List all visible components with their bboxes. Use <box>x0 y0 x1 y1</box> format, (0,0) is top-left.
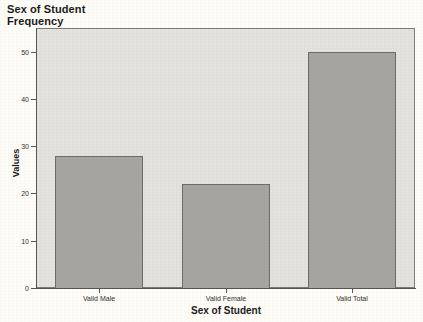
y-tick-label-0: 0 <box>0 285 29 292</box>
y-tick-10 <box>31 241 37 242</box>
chart-title: Sex of Student Frequency <box>7 3 85 27</box>
x-tick-label-1: Valid Female <box>206 295 246 302</box>
y-tick-label-10: 10 <box>0 237 29 244</box>
bars-layer <box>37 29 414 287</box>
x-tick-label-2: Valid Total <box>336 295 368 302</box>
y-axis-line <box>36 28 37 289</box>
x-tick-0 <box>99 288 100 293</box>
plot-area <box>36 28 415 288</box>
x-tick-2 <box>352 288 353 293</box>
y-tick-50 <box>31 52 37 53</box>
bar-chart: Sex of Student Frequency 01020304050 Val… <box>0 0 423 322</box>
y-tick-20 <box>31 193 37 194</box>
x-tick-1 <box>226 288 227 293</box>
y-tick-label-40: 40 <box>0 95 29 102</box>
bar <box>308 52 396 289</box>
y-tick-label-50: 50 <box>0 48 29 55</box>
y-tick-30 <box>31 146 37 147</box>
bar <box>55 156 143 289</box>
y-axis-title: Values <box>11 133 21 193</box>
bar <box>182 184 270 289</box>
y-tick-0 <box>31 288 37 289</box>
y-tick-40 <box>31 99 37 100</box>
x-axis-title: Sex of Student <box>36 305 416 316</box>
x-tick-label-0: Valid Male <box>83 295 115 302</box>
